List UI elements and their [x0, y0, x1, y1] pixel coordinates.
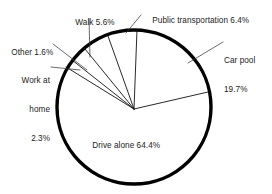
slice-label-work-at-home-line3: 2.3%	[4, 134, 50, 144]
slice-label-walk-text: Walk 5.6%	[75, 18, 114, 27]
slice-label-work-at-home: Work at home 2.3%	[4, 57, 50, 163]
slice-label-drive-alone-text: Drive alone 64.4%	[92, 141, 160, 150]
slice-label-work-at-home-line1: Work at	[4, 76, 50, 86]
slice-label-car-pool: Car pool 19.7%	[224, 37, 255, 114]
slice-label-drive-alone: Drive alone 64.4%	[83, 131, 160, 160]
slice-label-walk: Walk 5.6%	[66, 8, 115, 37]
slice-label-public-transportation-text: Public transportation 6.4%	[152, 16, 249, 25]
pie-chart-figure: Walk 5.6% Public transportation 6.4% Car…	[0, 0, 272, 194]
slice-label-car-pool-name: Car pool	[224, 56, 255, 66]
leader-car-pool	[188, 42, 223, 63]
slice-label-public-transportation: Public transportation 6.4%	[143, 6, 249, 35]
slice-label-other-text: Other 1.6%	[11, 48, 53, 57]
slice-label-car-pool-value: 19.7%	[224, 85, 255, 95]
slice-label-work-at-home-line2: home	[4, 105, 50, 115]
